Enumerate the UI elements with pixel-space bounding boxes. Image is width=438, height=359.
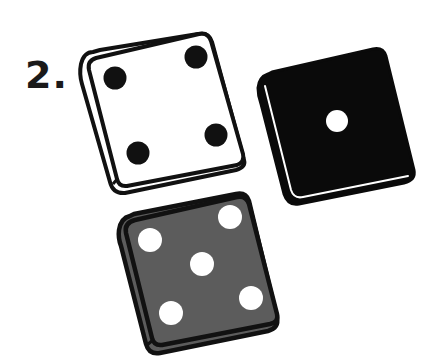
white-die-face (89, 34, 244, 186)
pip (205, 124, 228, 147)
pip (138, 228, 162, 252)
pip (190, 252, 214, 276)
gray-die (119, 194, 278, 354)
pip (326, 110, 348, 132)
dice-illustration (0, 0, 438, 359)
pip (218, 205, 242, 229)
pip (239, 286, 263, 310)
pip (159, 301, 183, 325)
pip (104, 67, 127, 90)
pip (185, 46, 208, 69)
black-die (258, 49, 414, 205)
pip (127, 142, 150, 165)
white-die (80, 34, 244, 193)
